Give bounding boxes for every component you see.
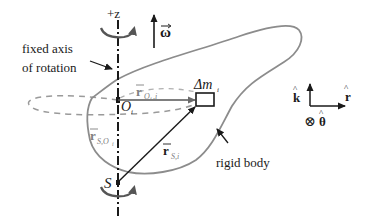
svg-text:i: i <box>150 96 152 102</box>
svg-text:Δm: Δm <box>193 77 212 92</box>
svg-text:i: i <box>217 86 219 94</box>
svg-text:S,i: S,i <box>171 152 179 161</box>
svg-text:i: i <box>112 141 114 147</box>
diagram-svg: +z ω fixed axis of rotation r O i ,i Δm … <box>0 0 373 221</box>
svg-text:,i: ,i <box>153 92 157 101</box>
point-S-marker <box>116 180 120 185</box>
fixed-axis-label-line1: fixed axis <box>22 41 73 56</box>
mass-element-box <box>196 93 214 106</box>
svg-text:i: i <box>131 108 133 116</box>
into-page-icon: ⊗ <box>304 114 316 129</box>
rigid-body-label: rigid body <box>216 155 270 170</box>
mass-element-label: Δm i <box>193 77 219 94</box>
omega-label: ω <box>160 24 171 40</box>
unit-vector-triad: k ^ r ^ ⊗ θ ^ <box>293 83 351 129</box>
orbit-ellipse <box>28 89 200 115</box>
point-Oi-label: O i <box>121 99 133 116</box>
label-r-S-Oi: r S,O i <box>90 128 114 147</box>
label-r-S-i: r S,i <box>163 143 179 161</box>
fixed-axis-pointer-arrow <box>90 61 112 69</box>
rigid-body-rotation-diagram: +z ω fixed axis of rotation r O i ,i Δm … <box>0 0 373 221</box>
svg-text:r: r <box>136 84 142 99</box>
svg-text:S,O: S,O <box>97 137 109 146</box>
svg-text:r: r <box>90 128 96 143</box>
svg-text:r: r <box>163 143 169 158</box>
svg-text:O: O <box>121 99 131 114</box>
label-r-Oi-i: r O i ,i <box>136 84 157 102</box>
axis-z-label: +z <box>107 6 120 21</box>
fixed-axis-label-line2: of rotation <box>22 60 77 75</box>
rigid-body-pointer-arrow <box>217 129 228 143</box>
vector-r-S-i <box>118 107 195 182</box>
point-S-label: S <box>104 175 112 191</box>
